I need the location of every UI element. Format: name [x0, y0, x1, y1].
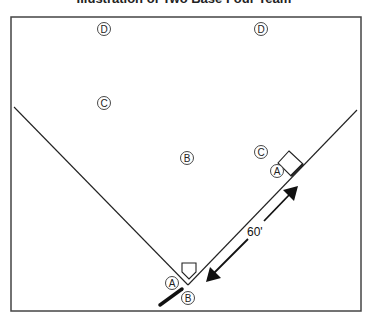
bat-icon [160, 289, 182, 305]
left-foul-line [14, 107, 188, 285]
position-letter: B [185, 293, 192, 304]
position-C1: C [98, 97, 111, 110]
position-D2: D [255, 23, 268, 36]
right-foul-line [188, 110, 357, 285]
position-letter: A [169, 278, 176, 289]
position-A1: A [271, 165, 284, 178]
position-letter: D [257, 24, 264, 35]
position-D1: D [98, 23, 111, 36]
home-plate-icon [182, 263, 196, 279]
position-C2: C [255, 146, 268, 159]
position-B1: B [181, 152, 194, 165]
field-diagram: 60' D D C C B A A B [0, 0, 368, 321]
position-letter: B [184, 153, 191, 164]
position-B2: B [182, 292, 195, 305]
position-letter: A [274, 166, 281, 177]
position-letter: C [257, 147, 264, 158]
position-letter: C [100, 98, 107, 109]
distance-label: 60' [247, 225, 263, 239]
position-A2: A [166, 277, 179, 290]
position-letter: D [100, 24, 107, 35]
